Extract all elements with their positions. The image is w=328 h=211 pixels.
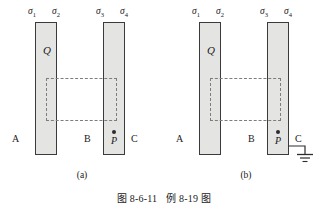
sigma-1-label: σ1 [192,6,200,18]
ground-earth-icon [289,144,319,170]
figure-caption: 图 8-6-11例 8-19 图 [0,190,328,205]
gaussian-surface-dashed-rectangle [210,78,281,121]
panel-a: σ1 σ2 σ3 σ4 Q A B C P (a) [0,0,164,190]
region-label-c: C [295,133,302,144]
point-p-label: P [108,135,120,146]
sigma-2-label: σ2 [52,6,60,18]
region-label-a: A [12,133,19,144]
region-label-b: B [84,133,91,144]
figure-container: σ1 σ2 σ3 σ4 Q A B C P (a) σ1 σ2 σ3 σ4 Q … [0,0,328,211]
region-label-c: C [131,133,138,144]
region-label-a: A [176,133,183,144]
sigma-1-label: σ1 [28,6,36,18]
figure-caption-number: 图 8-6-11 [117,193,157,204]
region-label-b: B [248,133,255,144]
sigma-3-label: σ3 [260,6,268,18]
figure-caption-text: 例 8-19 图 [166,193,211,204]
gaussian-surface-dashed-rectangle [46,78,117,121]
point-p-dot [276,130,280,134]
sigma-4-label: σ4 [120,6,128,18]
sigma-3-label: σ3 [96,6,104,18]
sigma-4-label: σ4 [284,6,292,18]
point-p-dot [112,130,116,134]
sigma-2-label: σ2 [216,6,224,18]
subcaption-a: (a) [0,170,164,180]
point-p-label: P [272,135,284,146]
panel-b: σ1 σ2 σ3 σ4 Q A B C P (b) [164,0,328,190]
subcaption-b: (b) [164,170,328,180]
charge-label-q: Q [202,44,220,56]
charge-label-q: Q [38,44,56,56]
